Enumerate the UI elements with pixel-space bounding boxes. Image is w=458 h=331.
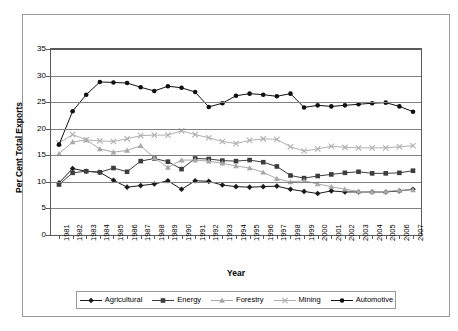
y-axis-tick-label: 35 <box>26 45 46 53</box>
chart-figure: Per Cent Total Exports 05101520253035 19… <box>0 0 458 331</box>
grid-line <box>51 49 421 50</box>
legend-label: Mining <box>299 296 321 304</box>
x-axis-tick-label: 1987 <box>144 224 152 241</box>
x-axis-tick-mark <box>86 235 87 239</box>
x-axis-tick-label: 1996 <box>267 224 275 241</box>
y-axis-tick-label: 0 <box>26 231 46 239</box>
y-axis-tick-label: 5 <box>26 204 46 212</box>
x-axis-tick-mark <box>399 235 400 239</box>
legend-label: Agricultural <box>105 296 143 304</box>
x-axis-tick-mark <box>345 235 346 239</box>
legend-label: Energy <box>177 296 201 304</box>
x-axis-tick-label: 1991 <box>199 224 207 241</box>
x-axis-tick-mark <box>290 235 291 239</box>
x-axis-tick-label: 2002 <box>348 224 356 241</box>
x-axis-tick-label: 1986 <box>131 224 139 241</box>
x-axis-tick-label: 2005 <box>389 224 397 241</box>
x-axis-tick-label: 1999 <box>308 224 316 241</box>
x-axis-tick-mark <box>127 235 128 239</box>
grid-line <box>51 208 421 209</box>
y-axis-tick-label: 15 <box>26 151 46 159</box>
x-axis-tick-label: 1981 <box>63 224 71 241</box>
x-axis-tick-mark <box>277 235 278 239</box>
legend-item-mining[interactable]: Mining <box>273 296 321 305</box>
grid-line <box>51 155 421 156</box>
x-axis-tick-mark <box>236 235 237 239</box>
legend-marker-diamond-icon <box>79 296 103 305</box>
legend-label: Forestry <box>236 296 264 304</box>
x-axis-tick-label: 1985 <box>117 224 125 241</box>
x-axis-tick-label: 1989 <box>171 224 179 241</box>
legend-label: Automotive <box>356 296 394 304</box>
x-axis-tick-mark <box>141 235 142 239</box>
y-axis-tick-label: 25 <box>26 98 46 106</box>
x-axis-tick-label: 1993 <box>226 224 234 241</box>
x-axis-tick-label: 1997 <box>280 224 288 241</box>
legend-marker-square-icon <box>151 296 175 305</box>
x-axis-tick-mark <box>372 235 373 239</box>
x-axis-tick-mark <box>386 235 387 239</box>
x-axis-tick-label: 1994 <box>240 224 248 241</box>
x-axis-title: Year <box>50 268 422 278</box>
x-axis-tick-mark <box>100 235 101 239</box>
x-axis-tick-mark <box>209 235 210 239</box>
x-axis-tick-mark <box>59 235 60 239</box>
series-mining <box>56 128 415 154</box>
x-axis-tick-mark <box>304 235 305 239</box>
x-axis-tick-mark <box>168 235 169 239</box>
legend-item-forestry[interactable]: Forestry <box>210 296 264 305</box>
y-axis-title: Per Cent Total Exports <box>14 102 24 193</box>
x-axis-tick-mark <box>195 235 196 239</box>
grid-line <box>51 102 421 103</box>
x-axis-tick-label: 2006 <box>403 224 411 241</box>
x-axis-tick-mark <box>113 235 114 239</box>
x-axis-tick-label: 2004 <box>376 224 384 241</box>
x-axis-tick-label: 1998 <box>294 224 302 241</box>
x-axis-tick-label: 1984 <box>103 224 111 241</box>
x-axis-tick-mark <box>73 235 74 239</box>
x-axis-tick-label: 2000 <box>321 224 329 241</box>
x-axis-tick-mark <box>413 235 414 239</box>
grid-line <box>51 76 421 77</box>
x-axis-tick-mark <box>154 235 155 239</box>
x-axis-tick-label: 1988 <box>158 224 166 241</box>
x-axis-tick-label: 1992 <box>212 224 220 241</box>
x-axis-tick-mark <box>331 235 332 239</box>
legend-item-agricultural[interactable]: Agricultural <box>79 296 143 305</box>
y-axis-tick-label: 30 <box>26 72 46 80</box>
x-axis-tick-label: 1982 <box>76 224 84 241</box>
legend-item-energy[interactable]: Energy <box>151 296 201 305</box>
series-layer <box>51 49 421 235</box>
legend-marker-circle-icon <box>330 296 354 305</box>
x-axis-tick-label: 2003 <box>362 224 370 241</box>
grid-line <box>51 182 421 183</box>
x-axis-tick-mark <box>318 235 319 239</box>
x-axis-tick-mark <box>359 235 360 239</box>
x-axis-tick-mark <box>182 235 183 239</box>
legend-marker-triangle-icon <box>210 296 234 305</box>
legend-marker-cross-icon <box>273 296 297 305</box>
y-axis-tick-label: 10 <box>26 178 46 186</box>
grid-line <box>51 129 421 130</box>
x-axis-tick-label: 1983 <box>90 224 98 241</box>
x-axis-tick-mark <box>250 235 251 239</box>
series-automotive <box>57 80 416 147</box>
x-axis-tick-label: 2007 <box>417 224 425 241</box>
x-axis-tick-label: 1990 <box>185 224 193 241</box>
legend-item-automotive[interactable]: Automotive <box>330 296 394 305</box>
plot-area <box>50 48 422 236</box>
x-axis-tick-label: 2001 <box>335 224 343 241</box>
x-axis-tick-mark <box>263 235 264 239</box>
y-axis-tick-label: 20 <box>26 125 46 133</box>
chart-legend: AgriculturalEnergyForestryMiningAutomoti… <box>76 291 396 309</box>
x-axis-tick-label: 1995 <box>253 224 261 241</box>
x-axis-tick-mark <box>222 235 223 239</box>
